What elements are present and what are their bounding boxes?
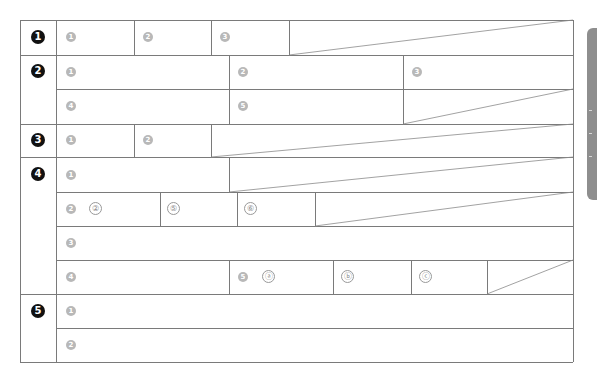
input-3-2[interactable] <box>135 125 211 157</box>
section-badge-3: 3 <box>31 133 45 147</box>
section-badge-2: 2 <box>31 64 45 78</box>
input-1-1[interactable] <box>57 21 134 55</box>
input-4-5-item-a[interactable] <box>230 261 333 294</box>
input-2-2[interactable] <box>230 56 403 89</box>
input-5-1[interactable] <box>57 295 573 328</box>
input-4-1[interactable] <box>57 158 229 192</box>
section-badge-1: 1 <box>31 30 45 44</box>
section-badge-5: 5 <box>31 304 45 318</box>
input-5-2[interactable] <box>57 329 573 362</box>
input-4-5-item-b[interactable] <box>334 261 411 294</box>
input-3-1[interactable] <box>57 125 134 157</box>
input-2-4[interactable] <box>57 90 229 124</box>
input-1-2[interactable] <box>135 21 211 55</box>
input-1-3[interactable] <box>212 21 289 55</box>
tab-mark <box>589 110 592 111</box>
input-4-2-item-5[interactable] <box>161 193 237 226</box>
tab-mark <box>589 133 592 134</box>
input-4-3[interactable] <box>57 227 573 260</box>
input-2-1[interactable] <box>57 56 229 89</box>
input-4-4[interactable] <box>57 261 229 294</box>
section-badge-4: 4 <box>31 167 45 181</box>
tab-mark <box>589 156 592 157</box>
input-2-5[interactable] <box>230 90 403 124</box>
input-4-5-item-c[interactable] <box>412 261 487 294</box>
side-index-tab[interactable] <box>587 28 597 200</box>
input-4-2-item-6[interactable] <box>238 193 315 226</box>
input-4-2-item-2[interactable] <box>57 193 160 226</box>
input-2-3[interactable] <box>404 56 573 89</box>
